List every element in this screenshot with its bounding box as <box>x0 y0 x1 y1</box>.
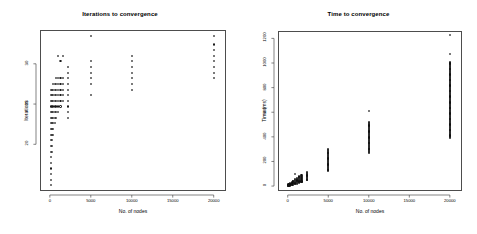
data-point <box>90 72 92 74</box>
data-point <box>50 167 52 169</box>
panel-iterations: Iterations to convergence Iterations No.… <box>0 0 240 234</box>
data-point <box>213 72 215 74</box>
data-point <box>67 100 69 102</box>
axis-ticks <box>240 0 477 234</box>
data-point <box>368 110 370 112</box>
data-point <box>90 83 92 85</box>
figure-two-scatter-plots: Iterations to convergence Iterations No.… <box>0 0 477 234</box>
data-point <box>213 49 215 51</box>
data-point <box>50 173 52 175</box>
data-point <box>62 55 64 57</box>
data-point <box>62 83 64 85</box>
data-point <box>131 89 133 91</box>
data-point <box>131 66 133 68</box>
data-point <box>67 105 69 107</box>
data-point <box>213 55 215 57</box>
data-point <box>50 162 52 164</box>
data-point <box>62 100 64 102</box>
data-point <box>62 89 64 91</box>
data-point <box>213 66 215 68</box>
data-point <box>90 66 92 68</box>
data-point <box>213 43 215 45</box>
data-point <box>449 137 451 139</box>
data-point <box>51 151 53 153</box>
data-point <box>449 34 451 36</box>
data-point <box>131 72 133 74</box>
data-point <box>59 105 61 107</box>
data-point <box>131 55 133 57</box>
data-point <box>50 184 52 186</box>
panel-time: Time to convergence Time (ms) No. of nod… <box>240 0 477 234</box>
data-point <box>67 117 69 119</box>
data-point <box>67 111 69 113</box>
axis-ticks <box>0 0 240 234</box>
data-point <box>368 152 370 154</box>
data-point <box>90 35 92 37</box>
data-point <box>67 83 69 85</box>
data-point <box>131 83 133 85</box>
data-point <box>50 179 52 181</box>
data-point <box>50 156 52 158</box>
data-point <box>213 35 215 37</box>
data-point <box>52 134 54 136</box>
data-point <box>51 145 53 147</box>
data-point <box>67 72 69 74</box>
data-point <box>67 66 69 68</box>
data-point <box>57 55 59 57</box>
data-point <box>67 89 69 91</box>
